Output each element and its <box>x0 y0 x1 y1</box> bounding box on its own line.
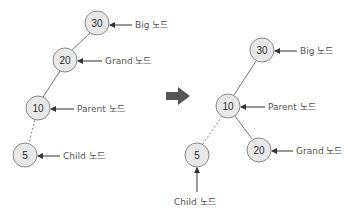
node-child: 5 <box>13 143 37 167</box>
svg-text:10: 10 <box>32 103 44 114</box>
svg-text:30: 30 <box>256 45 268 56</box>
svg-text:10: 10 <box>222 101 234 112</box>
svg-text:5: 5 <box>194 150 200 161</box>
label-child: Child 노드 <box>63 151 105 161</box>
edge-grand-parent <box>43 71 60 97</box>
label-parent: Parent 노드 <box>77 104 125 114</box>
node-parent: 10 <box>26 96 50 120</box>
svg-text:5: 5 <box>22 150 28 161</box>
node-grand: 20 <box>247 138 271 162</box>
node-grand: 20 <box>53 48 77 72</box>
right-arrow-icon <box>166 87 190 105</box>
svg-text:20: 20 <box>253 145 265 156</box>
node-child: 5 <box>185 143 209 167</box>
edge-parent-child <box>29 120 35 143</box>
rotation-diagram: 30 20 10 5 Big 노드 Grand 노드 Parent 노드 Chi… <box>0 0 355 217</box>
label-grand: Grand 노드 <box>296 146 342 156</box>
label-grand: Grand 노드 <box>105 56 151 66</box>
label-child: Child 노드 <box>174 197 216 207</box>
node-big: 30 <box>250 38 274 62</box>
edge-parent-child <box>203 116 222 144</box>
edge-big-grand <box>72 33 90 50</box>
edge-big-parent <box>234 61 256 95</box>
node-big: 30 <box>85 11 109 35</box>
after-tree: 30 10 5 20 Big 노드 Parent 노드 Grand 노드 Chi… <box>174 38 342 207</box>
svg-text:30: 30 <box>91 18 103 29</box>
before-tree: 30 20 10 5 Big 노드 Grand 노드 Parent 노드 Chi… <box>13 11 168 167</box>
label-big: Big 노드 <box>135 20 168 30</box>
label-big: Big 노드 <box>300 46 333 56</box>
label-parent: Parent 노드 <box>268 102 316 112</box>
edge-parent-grand <box>235 116 252 139</box>
node-parent: 10 <box>216 94 240 118</box>
svg-text:20: 20 <box>59 55 71 66</box>
